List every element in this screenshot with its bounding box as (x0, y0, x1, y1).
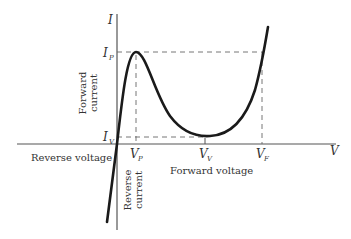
svg-text:V: V (207, 155, 213, 163)
svg-text:current: current (133, 171, 144, 209)
forward-voltage-label: Forward voltage (170, 165, 253, 176)
tunnel-diode-iv-diagram: I V I P I V V P V V V F Forward current … (0, 0, 351, 239)
svg-text:Reverse: Reverse (122, 170, 133, 211)
svg-text:Forward: Forward (77, 71, 88, 114)
reverse-current-label: Reverse current (122, 170, 144, 211)
vp-label: V P (130, 147, 143, 163)
forward-current-label: Forward current (77, 71, 99, 114)
x-axis-label: V (330, 144, 340, 158)
vf-label: V F (256, 147, 270, 163)
svg-text:current: current (88, 74, 99, 112)
svg-text:F: F (263, 155, 270, 163)
ip-label: I P (102, 46, 114, 62)
svg-text:P: P (137, 155, 143, 163)
svg-text:I: I (102, 46, 108, 60)
y-axis-label: I (107, 13, 113, 27)
svg-text:V: V (109, 138, 115, 146)
svg-text:P: P (108, 54, 114, 62)
vv-label: V V (199, 147, 213, 163)
svg-text:I: I (102, 130, 108, 144)
iv-label: I V (102, 130, 115, 146)
reverse-voltage-label: Reverse voltage (31, 152, 112, 163)
